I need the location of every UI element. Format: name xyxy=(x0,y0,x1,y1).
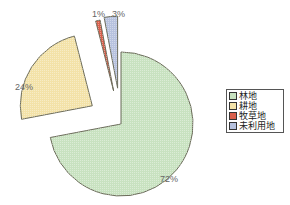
legend-item-grassland: 牧草地 xyxy=(229,111,281,121)
slice-percent-label: 3% xyxy=(112,9,125,19)
legend-swatch-grassland xyxy=(229,112,237,120)
legend-item-forest: 林地 xyxy=(229,91,281,101)
legend-swatch-farmland xyxy=(229,102,237,110)
legend-swatch-forest xyxy=(229,92,237,100)
slice-percent-label: 1% xyxy=(92,9,105,19)
pie-slice-texture xyxy=(20,36,92,119)
legend-item-farmland: 耕地 xyxy=(229,101,281,111)
legend-label: 牧草地 xyxy=(239,111,266,121)
legend-item-unused-land: 未利用地 xyxy=(229,121,281,131)
legend-label: 林地 xyxy=(239,91,257,101)
legend-label: 未利用地 xyxy=(239,121,275,131)
slice-percent-label: 24% xyxy=(15,82,33,92)
chart-legend: 林地 耕地 牧草地 未利用地 xyxy=(226,89,284,133)
slice-percent-label: 72% xyxy=(160,174,178,184)
legend-swatch-unused-land xyxy=(229,122,237,130)
legend-label: 耕地 xyxy=(239,101,257,111)
